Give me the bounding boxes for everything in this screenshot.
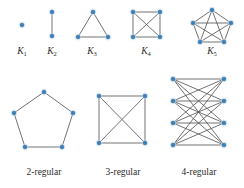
graph-vertex	[222, 121, 226, 125]
graph-edge	[62, 113, 73, 147]
graph-label-k2: K2	[46, 46, 57, 57]
vertices-k3	[75, 9, 112, 41]
graph-edge	[44, 92, 73, 113]
graph-figure: K1K2K3K4K52-regular3-regular4-regular	[0, 0, 244, 188]
graph-k5: K5	[190, 7, 235, 58]
graph-vertex	[171, 99, 175, 103]
edges-k3	[78, 12, 108, 37]
vertices-two-regular	[11, 89, 77, 151]
graph-label-four-regular: 4-regular	[182, 167, 218, 177]
graph-vertex	[60, 145, 64, 149]
graph-edge	[200, 23, 231, 42]
graph-edge	[14, 113, 25, 147]
graph-vertex	[131, 10, 135, 14]
edges-two-regular	[14, 92, 73, 147]
graph-vertex	[91, 10, 95, 14]
graph-vertex	[171, 77, 175, 81]
graph-vertex	[229, 21, 233, 25]
graph-vertex	[12, 111, 16, 115]
graph-label-k5: K5	[206, 46, 217, 57]
graph-vertex	[71, 111, 75, 115]
graph-vertex	[23, 145, 27, 149]
graph-label-three-regular: 3-regular	[106, 167, 142, 177]
graph-label-k3: K3	[86, 46, 97, 57]
graph-vertex	[222, 77, 226, 81]
graph-vertex	[210, 8, 214, 12]
graph-vertex	[106, 35, 110, 39]
graph-vertex	[50, 10, 54, 14]
graph-edge	[78, 12, 93, 37]
graph-vertex	[171, 143, 175, 147]
graph-k3: K3	[75, 9, 112, 58]
graph-vertex	[171, 121, 175, 125]
graph-vertex	[222, 143, 226, 147]
graph-k2: K2	[46, 9, 57, 58]
edges-k4	[133, 12, 160, 37]
edges-three-regular	[99, 96, 145, 143]
vertices-k1	[19, 22, 26, 29]
vertices-k5	[190, 7, 235, 46]
graph-label-k4: K4	[140, 46, 151, 57]
graph-vertex	[158, 10, 162, 14]
graph-edge	[193, 23, 224, 42]
graph-edge	[93, 12, 108, 37]
graph-edge	[14, 92, 44, 113]
graph-vertex	[20, 23, 24, 27]
graph-vertex	[191, 21, 195, 25]
edges-four-regular	[173, 79, 224, 145]
graph-four-regular: 4-regular	[170, 76, 228, 177]
graph-vertex	[50, 34, 54, 38]
graph-vertex	[97, 141, 101, 145]
graph-vertex	[158, 35, 162, 39]
graph-label-two-regular: 2-regular	[27, 167, 63, 177]
graph-k4: K4	[130, 9, 164, 58]
graph-vertex	[198, 40, 202, 44]
graph-vertex	[42, 90, 46, 94]
graph-vertex	[222, 40, 226, 44]
graph-vertex	[131, 35, 135, 39]
graph-k1: K1	[16, 22, 27, 58]
graph-vertex	[97, 94, 101, 98]
graph-vertex	[143, 94, 147, 98]
graph-vertex	[76, 35, 80, 39]
graph-vertex	[143, 141, 147, 145]
graph-two-regular: 2-regular	[11, 89, 77, 177]
edges-k5	[193, 10, 231, 42]
graph-edge	[200, 10, 212, 42]
graph-vertex	[222, 99, 226, 103]
graph-edge	[212, 10, 224, 42]
graph-label-k1: K1	[16, 46, 27, 57]
graph-three-regular: 3-regular	[96, 93, 149, 177]
